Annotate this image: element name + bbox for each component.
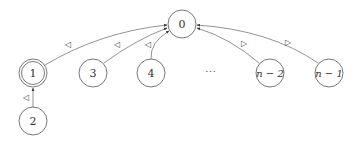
state-diagram: ◁ ◁ ◁ ◁ ▷ ▷ 0 1 2 3 4 ⋯ n − 2 n − 1	[0, 0, 357, 146]
edge-label-3-0: ◁	[113, 40, 120, 49]
node-2: 2	[19, 107, 47, 135]
edge-n1-to-0	[197, 25, 318, 63]
node-n-minus-2: n − 2	[256, 59, 284, 87]
edge-label-1-0: ◁	[64, 40, 71, 49]
node-1-accepting: 1	[19, 59, 47, 87]
node-4: 4	[137, 59, 165, 87]
node-n-minus-1: n − 1	[315, 59, 343, 87]
node-3-label: 3	[90, 67, 97, 80]
node-0-label: 0	[179, 18, 186, 31]
node-n-minus-1-label: n − 1	[315, 68, 343, 79]
ellipsis: ⋯	[205, 66, 216, 79]
node-1-label: 1	[30, 67, 37, 80]
node-4-label: 4	[148, 67, 155, 80]
edge-4-to-0	[151, 31, 169, 59]
edge-label-n1-0: ▷	[285, 38, 292, 47]
node-0: 0	[168, 10, 196, 38]
node-3: 3	[79, 59, 107, 87]
edge-label-n2-0: ▷	[241, 39, 248, 48]
edge-label-4-0: ◁	[144, 40, 151, 49]
node-n-minus-2-label: n − 2	[256, 68, 284, 79]
node-2-label: 2	[30, 115, 37, 128]
edge-label-2-1: ◁	[22, 93, 29, 102]
